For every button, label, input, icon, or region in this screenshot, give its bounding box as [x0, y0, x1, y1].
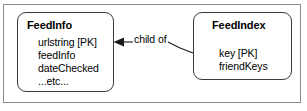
attribute-item: urlstring [PK] [38, 36, 99, 49]
entity-title-feedinfo: FeedInfo [27, 19, 72, 31]
entity-title-feedindex: FeedIndex [212, 19, 266, 31]
attribute-item: friendKeys [219, 60, 268, 73]
attribute-item: feedInfo [38, 49, 99, 62]
attribute-item: key [PK] [219, 47, 268, 60]
entity-box-feedinfo[interactable]: FeedInfo urlstring [PK] feedInfo dateChe… [17, 12, 114, 92]
attribute-item: ...etc... [38, 75, 99, 88]
er-diagram: FeedInfo urlstring [PK] feedInfo dateChe… [0, 0, 307, 111]
attribute-list-feedindex: key [PK] friendKeys [219, 47, 268, 73]
relationship-label: child of [133, 33, 167, 45]
attribute-item: dateChecked [38, 62, 99, 75]
attribute-list-feedinfo: urlstring [PK] feedInfo dateChecked ...e… [38, 36, 99, 88]
entity-box-feedindex[interactable]: FeedIndex key [PK] friendKeys [193, 12, 292, 80]
